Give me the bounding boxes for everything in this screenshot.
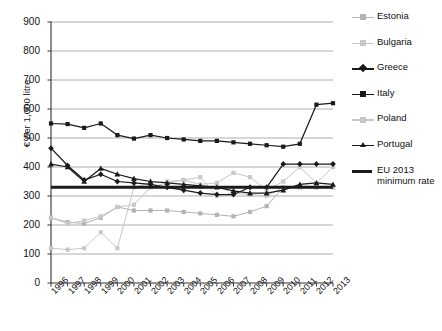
series-poland [49, 165, 335, 226]
legend-item-italy[interactable]: Italy [352, 87, 442, 113]
legend-item-eu-2013-minimum-rate[interactable]: EU 2013 minimum rate [352, 164, 442, 190]
y-axis-tick-label: 300 [10, 190, 40, 201]
legend-marker-icon [352, 63, 374, 75]
legend-marker-icon [352, 166, 374, 178]
legend-label: Bulgaria [374, 36, 412, 47]
y-axis-tick-label: 800 [10, 45, 40, 56]
line-chart: € per 1,000 litre EstoniaBulgariaGreeceI… [0, 0, 442, 331]
y-axis-tick-label: 500 [10, 132, 40, 143]
legend-label: Poland [374, 112, 407, 123]
legend-marker-icon [352, 12, 374, 24]
legend-label: EU 2013 minimum rate [374, 164, 442, 187]
legend-item-bulgaria[interactable]: Bulgaria [352, 36, 442, 62]
y-axis-tick-label: 100 [10, 248, 40, 259]
legend-label: Italy [374, 87, 394, 98]
legend-item-estonia[interactable]: Estonia [352, 10, 442, 36]
legend-item-greece[interactable]: Greece [352, 61, 442, 87]
y-axis-tick-label: 900 [10, 16, 40, 27]
y-axis-tick-label: 400 [10, 161, 40, 172]
y-axis-tick-label: 200 [10, 219, 40, 230]
series-italy [49, 101, 335, 149]
y-axis-tick-label: 600 [10, 103, 40, 114]
legend-marker-icon [352, 89, 374, 101]
legend-marker-icon [352, 38, 374, 50]
legend-marker-icon [352, 140, 374, 152]
y-axis-tick-label: 700 [10, 74, 40, 85]
legend-item-portugal[interactable]: Portugal [352, 138, 442, 164]
legend-label: Portugal [374, 138, 412, 149]
y-axis-tick-label: 0 [10, 277, 40, 288]
series-greece [48, 145, 336, 197]
legend-item-poland[interactable]: Poland [352, 112, 442, 138]
chart-legend: EstoniaBulgariaGreeceItalyPolandPortugal… [352, 10, 442, 189]
legend-marker-icon [352, 114, 374, 126]
legend-label: Greece [374, 61, 408, 72]
legend-label: Estonia [374, 10, 409, 21]
